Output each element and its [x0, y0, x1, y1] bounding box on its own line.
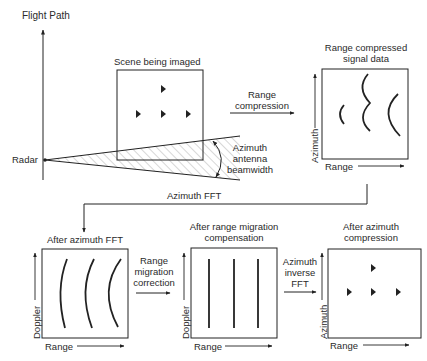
panel-after-azimuth-compression	[322, 249, 421, 345]
radar-label: Radar	[12, 154, 38, 165]
azimuth-fft-label: Azimuth FFT	[167, 190, 221, 201]
panel3-yaxis-label: Azimuth	[318, 305, 329, 339]
range-compressed-title: Range compressed signal data	[320, 42, 412, 64]
panel-after-azimuth-fft	[35, 249, 128, 346]
range-compressed-yaxis-label: Azimuth	[309, 129, 320, 163]
beamwidth-label: Azimuth antenna beamwidth	[222, 142, 278, 175]
panel3-title: After azimuth compression	[325, 221, 417, 243]
azimuth-inverse-fft-label: Azimuth inverse FFT	[278, 256, 322, 289]
panel1-xaxis-label: Range	[45, 341, 73, 352]
panel3-xaxis-label: Range	[330, 340, 358, 351]
target-icon	[186, 110, 191, 118]
flight-path-label: Flight Path	[22, 10, 70, 21]
range-migration-correction-label: Range migration correction	[130, 255, 178, 288]
target-icon	[371, 288, 376, 296]
range-compressed-box	[315, 69, 408, 166]
target-icon	[161, 85, 166, 93]
panel2-title: After range migration compensation	[180, 221, 288, 243]
antenna-beam	[43, 136, 240, 180]
panel2-yaxis-label: Doppler	[180, 306, 191, 339]
target-icon	[161, 110, 166, 118]
radar-dot-icon	[43, 158, 47, 162]
panel1-title: After azimuth FFT	[40, 234, 130, 245]
target-icon	[347, 288, 352, 296]
panel2-xaxis-label: Range	[194, 341, 222, 352]
range-compressed-xaxis-label: Range	[325, 161, 353, 172]
range-compression-label: Range compression	[232, 89, 292, 111]
panel1-yaxis-label: Doppler	[31, 306, 42, 339]
target-icon	[396, 288, 401, 296]
panel-after-range-migration	[184, 248, 277, 346]
target-icon	[136, 110, 141, 118]
target-icon	[371, 264, 376, 272]
scene-title: Scene being imaged	[114, 56, 201, 67]
